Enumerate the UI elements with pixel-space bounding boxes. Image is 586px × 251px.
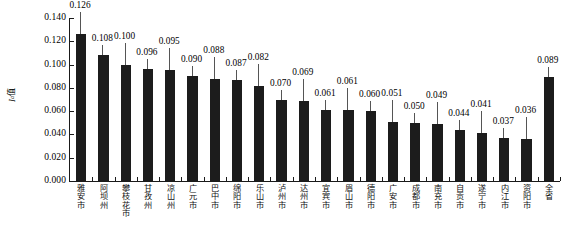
x-axis-category-label: 自贡市 — [454, 184, 463, 209]
value-leader-line — [102, 45, 103, 55]
y-axis-title-unit: 值 — [8, 88, 16, 96]
x-axis-tick-mark — [159, 177, 160, 181]
bar — [499, 138, 509, 181]
bar — [232, 80, 242, 181]
x-axis-tick-mark — [426, 177, 427, 181]
chart-figure: Ia值 0.0000.0200.0400.0600.0800.1000.1200… — [0, 0, 586, 251]
x-axis-tick-mark — [293, 177, 294, 181]
y-axis-tick-label: 0.020 — [44, 153, 66, 163]
y-axis-tick-label: 0.040 — [44, 130, 66, 140]
bar-value-label: 0.100 — [114, 32, 135, 41]
value-leader-line — [214, 57, 215, 79]
x-axis-tick-mark — [115, 177, 116, 181]
x-axis-category-label: 达州市 — [299, 184, 308, 209]
y-axis-tick-mark — [70, 111, 74, 112]
bar — [98, 55, 108, 181]
x-axis-category-label: 泸州市 — [276, 184, 285, 209]
x-axis-tick-mark — [515, 177, 516, 181]
x-axis-category-label: 德阳市 — [365, 184, 374, 209]
y-axis-tick-mark — [70, 158, 74, 159]
x-axis-category-label: 攀枝花市 — [120, 184, 129, 217]
bar — [366, 111, 376, 181]
x-axis-category-label: 阿坝州 — [98, 184, 107, 209]
bar-value-label: 0.089 — [537, 56, 558, 65]
x-axis-tick-mark — [181, 177, 182, 181]
x-axis-tick-mark — [404, 177, 405, 181]
y-axis-tick-labels: 0.0000.0200.0400.0600.0800.1000.1200.140 — [22, 0, 66, 251]
value-leader-line — [192, 66, 193, 76]
y-axis-tick-mark — [70, 134, 74, 135]
bar-value-label: 0.096 — [136, 48, 157, 57]
value-leader-line — [526, 117, 527, 139]
bar — [143, 69, 153, 181]
bar-value-label: 0.051 — [381, 89, 402, 98]
value-leader-line — [169, 48, 170, 70]
value-leader-line — [303, 79, 304, 101]
x-axis-category-label: 眉山市 — [343, 184, 352, 209]
bar-value-label: 0.070 — [270, 79, 291, 88]
x-axis-tick-mark — [270, 177, 271, 181]
value-leader-line — [414, 113, 415, 123]
bar-value-label: 0.044 — [448, 109, 469, 118]
bar — [432, 124, 442, 181]
bar-value-label: 0.069 — [292, 68, 313, 77]
y-axis-tick-label: 0.140 — [44, 13, 66, 23]
y-axis-tick-mark — [70, 41, 74, 42]
x-axis-tick-mark — [92, 177, 93, 181]
x-axis-category-label: 乐山市 — [254, 184, 263, 209]
bar — [477, 133, 487, 181]
x-axis-tick-mark — [137, 177, 138, 181]
x-axis-category-label: 全省 — [544, 184, 553, 201]
value-leader-line — [125, 43, 126, 65]
x-axis-category-label: 遂宁市 — [477, 184, 486, 209]
x-axis-tick-mark — [449, 177, 450, 181]
bar — [410, 123, 420, 181]
value-leader-line — [236, 70, 237, 80]
y-axis-tick-mark — [70, 88, 74, 89]
bar — [321, 110, 331, 181]
x-axis-tick-mark — [538, 177, 539, 181]
bar — [187, 76, 197, 181]
bar-value-label: 0.108 — [92, 34, 113, 43]
x-axis-category-label: 广元市 — [187, 184, 196, 209]
y-axis-tick-label: 0.080 — [44, 83, 66, 93]
value-leader-line — [258, 64, 259, 86]
bar-value-label: 0.049 — [426, 91, 447, 100]
bar-value-label: 0.087 — [225, 59, 246, 68]
x-axis-tick-mark — [360, 177, 361, 181]
bar-value-label: 0.082 — [248, 53, 269, 62]
value-leader-line — [325, 100, 326, 110]
y-axis-title-subscript: a — [9, 96, 15, 99]
bar-value-label: 0.095 — [159, 37, 180, 46]
bar — [455, 130, 465, 181]
value-leader-line — [548, 67, 549, 77]
bar-value-label: 0.061 — [315, 89, 336, 98]
x-axis-category-label: 凉山州 — [165, 184, 174, 209]
bar-value-label: 0.090 — [181, 55, 202, 64]
bar — [276, 100, 286, 182]
y-axis-title-symbol: I — [8, 99, 17, 102]
x-axis-tick-mark — [471, 177, 472, 181]
bar-value-label: 0.061 — [337, 77, 358, 86]
value-leader-line — [147, 59, 148, 69]
x-axis-category-label: 宜宾市 — [321, 184, 330, 209]
bar-value-label: 0.036 — [515, 106, 536, 115]
value-leader-line — [347, 88, 348, 110]
bar-value-label: 0.060 — [359, 90, 380, 99]
x-axis-tick-mark — [560, 177, 561, 181]
value-leader-line — [370, 101, 371, 111]
y-axis-tick-label: 0.120 — [44, 37, 66, 47]
y-axis-tick-label: 0.060 — [44, 106, 66, 116]
x-axis-tick-mark — [204, 177, 205, 181]
bar-value-label: 0.041 — [470, 100, 491, 109]
x-axis-category-label: 甘孜州 — [143, 184, 152, 209]
x-axis-category-label: 内江市 — [499, 184, 508, 209]
x-axis-tick-mark — [337, 177, 338, 181]
x-axis-tick-mark — [315, 177, 316, 181]
x-axis-tick-mark — [226, 177, 227, 181]
x-axis-tick-labels: 雅安市阿坝州攀枝花市甘孜州凉山州广元市巴中市绵阳市乐山市泸州市达州市宜宾市眉山市… — [69, 184, 560, 251]
value-leader-line — [281, 90, 282, 100]
x-axis-category-label: 广安市 — [388, 184, 397, 209]
bar — [76, 34, 86, 181]
value-leader-line — [459, 120, 460, 130]
